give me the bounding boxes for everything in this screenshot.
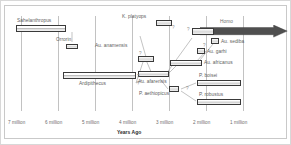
tick-label-6-million: 6 million [45, 120, 62, 125]
taxon-bar-au-sediba [211, 38, 219, 44]
axis-title-years-ago: Years Ago [117, 129, 141, 135]
taxon-label-homo: Homo [220, 19, 233, 24]
taxon-label-au-garhi: Au. garhi [207, 49, 227, 54]
question-mark-homo-origin: ? [187, 27, 190, 32]
taxon-bar-au-garhi [197, 48, 205, 54]
tick-label-2-million: 2 million [193, 120, 210, 125]
tick-label-1-million: 1 million [230, 120, 247, 125]
gridline-5-million [95, 16, 96, 111]
taxon-label-au-africanus: Au. africanus [204, 60, 233, 65]
question-mark-ardipithecus-branch: ? [137, 81, 140, 86]
tick-label-4-million: 4 million [119, 120, 136, 125]
question-mark-africanus-branch: ? [172, 25, 175, 30]
taxon-bar-ardipithecus [63, 72, 136, 79]
taxon-bar-p-boisei [197, 80, 241, 86]
taxon-label-au-afarensis: Au. afarensis [138, 79, 167, 84]
question-mark-aethiopicus-boisei: ? [186, 86, 189, 91]
taxon-bar-au-anamensis [138, 56, 154, 62]
taxon-bar-p-aethiopicus [169, 86, 179, 92]
tick-label-7-million: 7 million [8, 120, 25, 125]
taxon-bar-orrorin [66, 44, 78, 49]
gridline-4-million [132, 16, 133, 111]
taxon-bar-au-afarensis [138, 71, 169, 77]
taxon-bar-homo-stub [192, 28, 214, 35]
taxon-label-ardipithecus: Ardipithecus [79, 81, 106, 86]
taxon-label-k-platyops: K. platyops [122, 14, 146, 19]
taxon-bar-au-africanus [170, 60, 202, 66]
taxon-bar-sahelanthropus [16, 25, 66, 32]
tick-label-3-million: 3 million [156, 120, 173, 125]
question-mark-garhi-branch: ? [203, 43, 206, 48]
hominin-timeline-figure: Sahelanthropus Orrorin Ardipithecus K. p… [0, 0, 291, 145]
taxon-label-p-boisei: P. boisei [199, 73, 217, 78]
taxon-label-p-robustus: P. robustus [199, 92, 223, 97]
taxon-bar-k-platyops [156, 20, 172, 26]
timeline-plot-area: Sahelanthropus Orrorin Ardipithecus K. p… [0, 0, 291, 145]
taxon-bar-p-robustus [197, 99, 241, 105]
question-mark-anamensis-platyops: ? [139, 51, 142, 56]
taxon-label-au-sediba: Au. sediba [221, 39, 244, 44]
taxon-label-au-anamensis: Au. anamensis [95, 43, 127, 48]
taxon-label-orrorin: Orrorin [56, 37, 71, 42]
taxon-label-sahelanthropus: Sahelanthropus [17, 18, 51, 23]
tick-label-5-million: 5 million [82, 120, 99, 125]
question-mark-ardipithecus-anamensis: ? [137, 74, 140, 79]
taxon-label-p-aethiopicus: P. aethiopicus [139, 91, 169, 96]
